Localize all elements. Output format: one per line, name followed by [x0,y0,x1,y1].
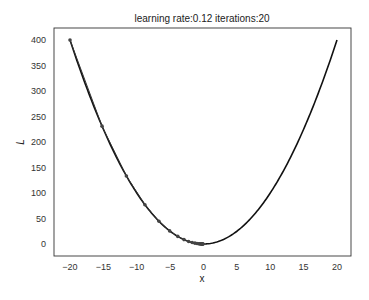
x-axis-label: x [200,273,205,284]
y-tick-label: 350 [31,61,46,71]
y-tick-label: 100 [31,188,46,198]
descent-point [68,38,72,42]
chart-title: learning rate:0.12 iterations:20 [134,13,270,24]
plot-area [68,38,337,246]
y-tick-label: 250 [31,112,46,122]
descent-point [201,242,205,246]
x-tick-label: −15 [96,262,111,272]
descent-point [143,203,147,207]
descent-path [70,40,203,244]
x-tick-label: −10 [129,262,144,272]
descent-point [100,124,104,128]
descent-point [125,174,129,178]
x-tick-label: 0 [201,262,206,272]
y-axis-ticks: 050100150200250300350400 [31,35,46,249]
x-tick-label: 20 [332,262,342,272]
y-tick-label: 400 [31,35,46,45]
descent-point [157,219,161,223]
axes-frame [54,28,351,256]
x-tick-label: 15 [299,262,309,272]
y-tick-label: 300 [31,86,46,96]
descent-point [176,235,180,239]
y-tick-label: 150 [31,163,46,173]
y-tick-label: 200 [31,137,46,147]
chart: learning rate:0.12 iterations:20 −20−15−… [0,0,369,300]
y-tick-label: 50 [36,214,46,224]
descent-point [187,240,191,244]
descent-point [182,238,186,242]
x-tick-label: −20 [62,262,77,272]
y-tick-label: 0 [41,239,46,249]
x-tick-label: −5 [165,262,175,272]
x-tick-label: 10 [265,262,275,272]
x-axis-ticks: −20−15−10−505101520 [62,262,342,272]
descent-point [168,229,172,233]
y-axis-label: L [15,139,26,145]
x-tick-label: 5 [234,262,239,272]
